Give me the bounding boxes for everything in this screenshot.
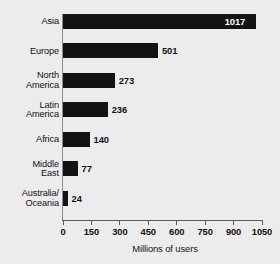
bar <box>63 132 90 147</box>
x-axis-title-text: Millions of users <box>132 243 198 254</box>
bar-row: Latin America236 <box>0 102 280 131</box>
x-axis-title: Millions of users <box>0 243 280 254</box>
bar <box>63 73 115 88</box>
bar <box>63 161 78 176</box>
bar <box>63 43 158 58</box>
bar <box>63 102 108 117</box>
category-label: Middle East <box>0 160 59 179</box>
bar-row: Australia/ Oceania24 <box>0 191 280 220</box>
x-axis-tick-label: 750 <box>197 226 212 237</box>
x-axis-tick <box>262 220 263 225</box>
bar-row: Europe501 <box>0 43 280 72</box>
bar-row: Asia1017 <box>0 14 280 43</box>
bar-value-label: 1017 <box>225 14 245 29</box>
x-axis-tick-label: 0 <box>60 226 65 237</box>
x-axis-tick-label: 600 <box>169 226 184 237</box>
horizontal-bar-chart: Asia1017Europe501North America273Latin A… <box>0 0 280 264</box>
bar-value-label: 273 <box>119 73 134 88</box>
x-axis-tick <box>176 220 177 225</box>
x-axis-tick <box>205 220 206 225</box>
category-label: Australia/ Oceania <box>0 189 59 208</box>
bar <box>63 191 68 206</box>
x-axis-tick-label: 1050 <box>252 226 272 237</box>
category-label: Asia <box>0 17 59 27</box>
bar-row: Africa140 <box>0 132 280 161</box>
category-label: Africa <box>0 135 59 145</box>
x-axis-tick <box>91 220 92 225</box>
category-label: Latin America <box>0 101 59 120</box>
bar-value-label: 24 <box>72 191 82 206</box>
category-label: North America <box>0 71 59 90</box>
bar-value-label: 140 <box>94 132 109 147</box>
x-axis-tick-label: 150 <box>84 226 99 237</box>
x-axis-tick <box>63 220 64 225</box>
bar-row: North America273 <box>0 73 280 102</box>
bar-value-label: 236 <box>112 102 127 117</box>
x-axis-tick <box>233 220 234 225</box>
x-axis-tick-label: 300 <box>112 226 127 237</box>
x-axis-tick-label: 900 <box>226 226 241 237</box>
x-axis-tick-label: 450 <box>141 226 156 237</box>
bar-value-label: 77 <box>82 161 92 176</box>
bar-value-label: 501 <box>162 43 177 58</box>
x-axis-tick <box>148 220 149 225</box>
category-label: Europe <box>0 47 59 57</box>
bar-row: Middle East77 <box>0 161 280 190</box>
x-axis-tick <box>119 220 120 225</box>
